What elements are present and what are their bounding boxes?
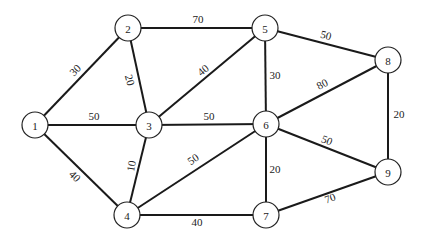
edge-weight-2-5: 70 [193,13,205,25]
edge-weight-3-4: 10 [124,159,138,172]
edge-weight-4-7: 40 [192,216,204,228]
edge-weight-5-8: 50 [319,28,333,42]
node-label: 3 [146,120,152,132]
node-1: 1 [22,112,48,138]
node-label: 7 [263,210,269,222]
node-7: 7 [253,202,279,228]
edge-weight-7-9: 70 [323,190,338,205]
node-label: 2 [125,23,131,35]
graph-canvas: 3050402070405010504030508050207020 12345… [0,0,423,239]
edge-1-4 [35,125,127,215]
edge-weight-5-6: 30 [270,69,282,81]
edge-weight-2-3: 20 [123,73,138,87]
node-label: 1 [32,120,38,132]
node-5: 5 [252,15,278,41]
node-label: 9 [385,167,391,179]
node-9: 9 [375,159,401,185]
node-label: 5 [262,23,268,35]
edge-6-9 [266,124,388,172]
edge-weight-1-3: 50 [89,110,101,122]
node-6: 6 [253,111,279,137]
node-3: 3 [136,112,162,138]
node-2: 2 [115,15,141,41]
edge-weight-6-8: 80 [314,76,330,92]
node-8: 8 [375,47,401,73]
node-4: 4 [114,202,140,228]
edge-5-6 [265,28,266,124]
node-label: 8 [385,55,391,67]
edge-weight-6-7: 20 [270,163,282,175]
edge-weight-8-9: 20 [394,108,406,120]
edge-weights-layer: 3050402070405010504030508050207020 [67,13,405,228]
node-label: 4 [124,210,130,222]
edge-weight-3-6: 50 [204,110,216,122]
edge-1-2 [35,28,128,125]
edge-weight-4-6: 50 [185,151,201,167]
edge-6-8 [266,60,388,124]
node-label: 6 [263,119,269,131]
edge-3-6 [149,124,266,125]
